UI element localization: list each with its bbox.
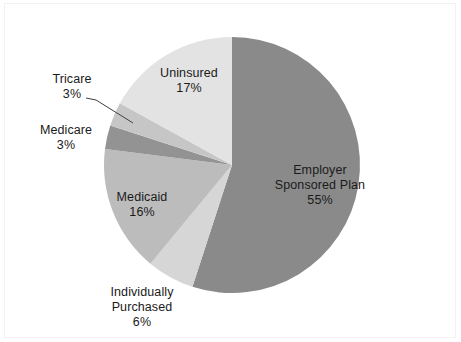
slice-label-medicare: Medicare 3%	[27, 123, 105, 153]
slice-value-text: 6%	[82, 315, 202, 330]
pie-svg	[0, 0, 461, 342]
pie-chart-screenshot: Employer Sponsored Plan 55% Uninsured 17…	[0, 0, 461, 342]
slice-label-text-line1: Medicare	[27, 123, 105, 138]
slice-label-text-line2: Purchased	[82, 300, 202, 315]
slice-value-text: 3%	[27, 138, 105, 153]
slice-label-employer-sponsored-plan: Employer Sponsored Plan 55%	[262, 163, 378, 208]
slice-label-text-line1: Individually	[82, 285, 202, 300]
slice-label-text-line1: Medicaid	[97, 190, 187, 205]
slice-value-text: 16%	[97, 205, 187, 220]
pie-chart: Employer Sponsored Plan 55% Uninsured 17…	[0, 0, 461, 342]
slice-label-medicaid: Medicaid 16%	[97, 190, 187, 220]
slice-label-text-line1: Uninsured	[141, 66, 237, 81]
slice-value-text: 55%	[262, 193, 378, 208]
slice-label-text-line1: Employer	[262, 163, 378, 178]
slice-value-text: 3%	[36, 87, 108, 102]
slice-label-tricare: Tricare 3%	[36, 72, 108, 102]
slice-value-text: 17%	[141, 81, 237, 96]
slice-label-text-line1: Tricare	[36, 72, 108, 87]
slice-label-text-line2: Sponsored Plan	[262, 178, 378, 193]
slice-label-uninsured: Uninsured 17%	[141, 66, 237, 96]
slice-label-individually-purchased: Individually Purchased 6%	[82, 285, 202, 330]
